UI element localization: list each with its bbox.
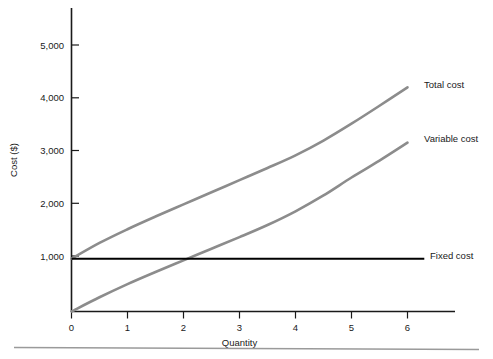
x-axis-ticks	[72, 312, 408, 319]
series-label-total-cost: Total cost	[424, 79, 464, 90]
x-tick-label-5: 5	[349, 322, 354, 333]
x-tick-label-0: 0	[69, 322, 74, 333]
series-label-fixed-cost: Fixed cost	[430, 250, 474, 261]
footer-divider	[14, 348, 479, 350]
series-line-variable-cost	[72, 143, 408, 312]
y-tick-label-1000: 1,000	[40, 251, 64, 262]
x-tick-label-2: 2	[181, 322, 186, 333]
chart-container: 5,000 4,000 3,000 2,000 1,000 0 1 2 3 4 …	[0, 0, 493, 359]
y-tick-label-4000: 4,000	[40, 92, 64, 103]
axes-group	[72, 8, 456, 312]
y-tick-label-5000: 5,000	[40, 40, 64, 51]
y-tick-label-2000: 2,000	[40, 198, 64, 209]
x-tick-label-1: 1	[125, 322, 130, 333]
y-tick-label-3000: 3,000	[40, 145, 64, 156]
y-axis-ticks	[72, 45, 80, 256]
x-tick-label-6: 6	[405, 322, 410, 333]
series-label-variable-cost: Variable cost	[424, 133, 479, 144]
x-axis-title: Quantity	[222, 337, 258, 348]
series-group	[72, 87, 425, 311]
x-axis-tick-labels: 0 1 2 3 4 5 6	[69, 322, 410, 333]
x-tick-label-4: 4	[293, 322, 298, 333]
series-labels-group: Total cost Variable cost Fixed cost	[424, 79, 479, 261]
y-axis-title: Cost ($)	[8, 143, 19, 177]
y-axis-tick-labels: 5,000 4,000 3,000 2,000 1,000	[40, 40, 64, 262]
cost-chart: 5,000 4,000 3,000 2,000 1,000 0 1 2 3 4 …	[0, 0, 493, 359]
x-tick-label-3: 3	[237, 322, 242, 333]
